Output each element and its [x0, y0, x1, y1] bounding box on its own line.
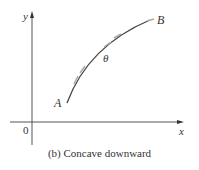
figure-caption: (b) Concave downward — [0, 147, 199, 159]
curve-a-to-b — [67, 20, 150, 103]
x-axis-arrow-icon — [177, 120, 184, 124]
origin-label: 0 — [23, 124, 29, 136]
y-axis-arrow-icon — [30, 11, 34, 18]
point-a-label: A — [53, 96, 62, 110]
y-axis-label: y — [22, 10, 28, 22]
concavity-diagram: y x 0 A B θ — [0, 0, 199, 170]
tangent-segments — [74, 19, 154, 84]
tangent-segment — [104, 42, 111, 47]
tangent-segment — [147, 19, 154, 21]
angle-theta-label: θ — [103, 52, 109, 64]
x-axis-label: x — [178, 125, 184, 137]
y-axis — [30, 11, 34, 145]
point-b-label: B — [157, 13, 165, 27]
x-axis — [10, 120, 184, 124]
